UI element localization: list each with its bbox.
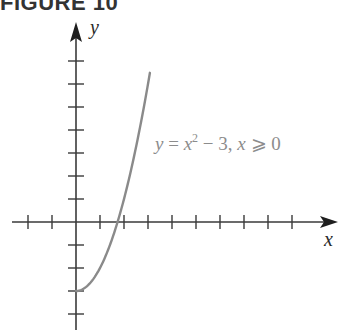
- eq-rest: − 3,: [198, 133, 237, 154]
- x-axis: [12, 215, 338, 229]
- eq-condition: ⩾ 0: [246, 133, 281, 154]
- equation-label: y = x2 − 3, x ⩾ 0: [153, 131, 281, 154]
- y-axis: [68, 22, 84, 330]
- eq-y: y: [153, 133, 164, 154]
- parabola-curve: [76, 73, 150, 291]
- graph: y x y = x2 − 3, x ⩾ 0: [0, 0, 340, 330]
- y-axis-label: y: [88, 16, 99, 39]
- x-axis-label: x: [323, 228, 333, 250]
- eq-equals: =: [163, 133, 183, 154]
